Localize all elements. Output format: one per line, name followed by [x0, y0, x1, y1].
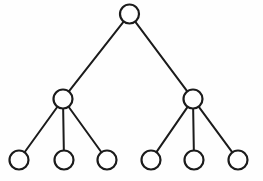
leaf-node-6[interactable]: [229, 151, 248, 170]
leaf-node-1[interactable]: [10, 151, 29, 170]
leaf-node-3[interactable]: [98, 151, 117, 170]
tree-diagram-canvas: [0, 0, 263, 181]
edge-root-left: [68, 21, 124, 92]
root-node[interactable]: [120, 5, 139, 24]
edge-right-leaf4: [156, 106, 188, 152]
tree-diagram-svg: [0, 0, 263, 181]
edge-right-leaf6: [198, 106, 232, 153]
edge-right-leaf5: [193, 108, 194, 151]
leaf-node-5[interactable]: [185, 151, 204, 170]
edge-root-right: [135, 21, 188, 92]
node-layer: [10, 5, 248, 170]
leaf-node-2[interactable]: [55, 151, 74, 170]
internal-node-left[interactable]: [54, 90, 73, 109]
edge-left-leaf2: [63, 108, 64, 151]
internal-node-right[interactable]: [184, 90, 203, 109]
edge-left-leaf1: [24, 106, 58, 153]
edge-layer: [24, 21, 233, 153]
edge-left-leaf3: [68, 106, 102, 153]
leaf-node-4[interactable]: [142, 151, 161, 170]
